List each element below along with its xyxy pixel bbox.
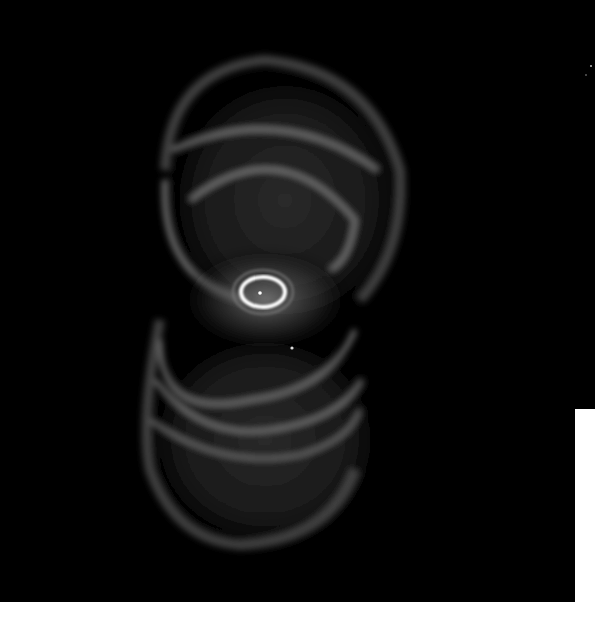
waist-glow xyxy=(175,245,355,355)
nebula-image xyxy=(0,0,595,628)
central-star xyxy=(258,291,262,295)
field-star xyxy=(290,346,293,349)
lower-lobe xyxy=(140,320,390,555)
